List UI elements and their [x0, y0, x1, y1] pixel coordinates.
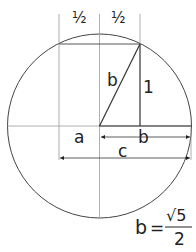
label-c: c: [118, 141, 127, 161]
hypotenuse-b: [100, 44, 141, 126]
label-side-1: 1: [143, 77, 154, 97]
label-half-right: ½: [111, 9, 126, 27]
formula-denominator: 2: [174, 229, 185, 249]
label-half-left: ½: [72, 9, 87, 27]
formula: b = √5 2: [135, 206, 192, 249]
golden-ratio-diagram: ½ ½ b 1 a b c b = √5 2: [0, 0, 196, 252]
formula-numerator: √5: [166, 206, 186, 225]
label-hyp-b: b: [107, 70, 118, 90]
formula-lhs: b: [135, 216, 147, 238]
label-a: a: [74, 127, 84, 147]
formula-eq: =: [150, 218, 164, 238]
label-b: b: [138, 127, 149, 147]
